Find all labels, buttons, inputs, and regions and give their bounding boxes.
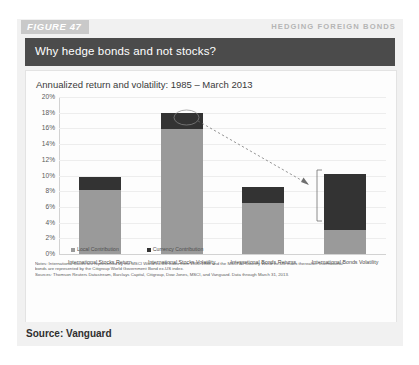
figure-header-right-label: HEDGING FOREIGN BONDS [271,22,396,31]
bar-segment-local [242,203,284,254]
y-axis-tick-label: 2% [45,235,55,242]
gridline [59,144,386,145]
y-axis-tick-label: 4% [45,219,55,226]
legend-swatch [147,248,151,252]
chart-title: Annualized return and volatility: 1985 –… [36,79,253,90]
bar-4 [324,174,366,254]
bar-1 [79,177,121,254]
source-bar: Source: Vanguard [17,322,403,346]
legend-item: Currency Contribution [147,247,203,253]
y-axis-tick-label: 10% [42,172,55,179]
y-axis-tick-label: 16% [42,125,55,132]
y-axis-tick-label: 6% [45,204,55,211]
y-axis-tick-label: 18% [42,109,55,116]
gridline [59,97,386,98]
y-axis-tick-label: 8% [45,188,55,195]
bar-segment-local [79,190,121,254]
gridline [59,113,386,114]
figure-title: Why hedge bonds and not stocks? [35,45,216,57]
notes-line-3: Sources: Thomson Reuters Datastream, Bar… [35,272,387,277]
bar-segment-currency [324,174,366,231]
figure-screenshot: FIGURE 47 HEDGING FOREIGN BONDS Why hedg… [0,0,419,365]
bar-segment-local [324,230,366,254]
source-label: Source: Vanguard [26,328,112,339]
chart-plot-area: 20%18%16%14%12%10%8%6%4%2%0%Internationa… [59,97,386,255]
figure-title-bar: Why hedge bonds and not stocks? [25,38,395,66]
bar-3 [242,187,284,254]
bar-segment-currency [79,177,121,190]
figure-card: FIGURE 47 HEDGING FOREIGN BONDS Why hedg… [17,19,403,346]
bar-segment-local [161,129,203,254]
bar-2 [161,113,203,254]
gridline [59,160,386,161]
legend-label: Local Contribution [77,247,119,253]
gridline [59,128,386,129]
y-axis-tick-label: 20% [42,94,55,101]
legend-swatch [71,248,75,252]
bar-segment-currency [242,187,284,203]
y-axis-tick-label: 14% [42,141,55,148]
y-axis-tick-label: 12% [42,157,55,164]
legend-label: Currency Contribution [153,247,203,253]
chart-panel: Annualized return and volatility: 1985 –… [25,70,397,324]
figure-number-tag: FIGURE 47 [21,20,89,34]
figure-banner: FIGURE 47 HEDGING FOREIGN BONDS [17,19,403,36]
x-axis-line [59,254,386,255]
y-axis-tick-label: 0% [45,251,55,258]
chart-notes: Notes: International stocks are represen… [35,261,387,277]
chart-legend: Local ContributionCurrency Contribution [71,247,203,253]
legend-item: Local Contribution [71,247,119,253]
bar-segment-currency [161,113,203,129]
